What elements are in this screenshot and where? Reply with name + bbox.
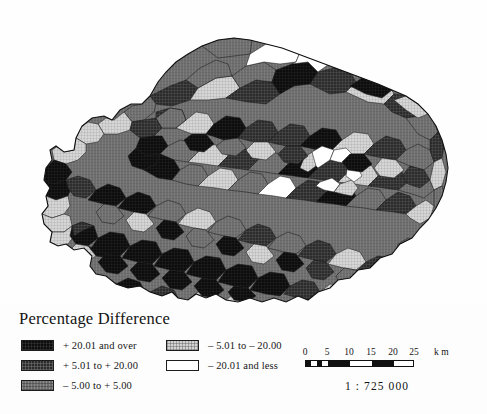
choropleth-map [0, 0, 487, 305]
scale-tick-5: 5 [325, 347, 330, 357]
map-figure [0, 0, 487, 305]
scale-seg-2 [317, 361, 322, 366]
legend-item-minus5-to-minus20: – 5.01 to – 20.00 [166, 339, 282, 352]
legend-label-minus5-to-minus20: – 5.01 to – 20.00 [208, 340, 282, 351]
legend-item-minus5-to-plus5: – 5.00 to + 5.00 [21, 379, 138, 392]
scale-bar [305, 360, 414, 367]
scale-seg-1 [306, 361, 311, 366]
scale-tick-10: 10 [344, 347, 354, 357]
scale-seg-4 [372, 361, 394, 366]
scale-tick-20: 20 [388, 347, 398, 357]
legend-swatch-over-20 [21, 340, 54, 351]
legend-column-right: – 5.01 to – 20.00 – 20.01 and less [166, 339, 282, 379]
scale-tick-0: 0 [303, 347, 308, 357]
legend-item-5-to-20: + 5.01 to + 20.00 [21, 359, 138, 372]
map-legend: Percentage Difference + 20.01 and over +… [0, 303, 487, 414]
legend-label-over-20: + 20.01 and over [63, 340, 137, 351]
legend-label-minus5-to-plus5: – 5.00 to + 5.00 [63, 380, 132, 391]
scale-bar-block: 0 5 10 15 20 25 k m 1 : 725 000 [305, 347, 465, 367]
legend-swatch-under-minus20 [166, 360, 199, 371]
legend-label-5-to-20: + 5.01 to + 20.00 [63, 360, 138, 371]
legend-item-over-20: + 20.01 and over [21, 339, 138, 352]
legend-item-under-minus20: – 20.01 and less [166, 359, 282, 372]
scale-tick-25: 25 [409, 347, 419, 357]
legend-swatch-minus5-to-plus5 [21, 380, 54, 391]
scale-tick-labels: 0 5 10 15 20 25 k m [305, 347, 455, 359]
map-page: Percentage Difference + 20.01 and over +… [0, 0, 487, 414]
scale-unit-label: k m [434, 347, 449, 357]
legend-swatch-minus5-to-minus20 [166, 340, 199, 351]
legend-swatch-5-to-20 [21, 360, 54, 371]
scale-seg-3 [328, 361, 350, 366]
legend-title: Percentage Difference [19, 309, 170, 329]
scale-ratio-text: 1 : 725 000 [345, 380, 409, 392]
scale-tick-15: 15 [366, 347, 376, 357]
legend-column-left: + 20.01 and over + 5.01 to + 20.00 – 5.0… [21, 339, 138, 399]
legend-label-under-minus20: – 20.01 and less [208, 360, 278, 371]
